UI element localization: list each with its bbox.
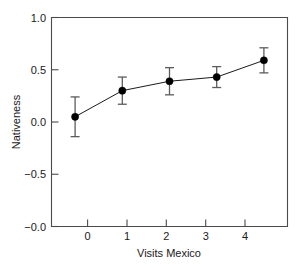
data-point-marker [119, 87, 126, 94]
y-axis-ticks [52, 18, 59, 227]
data-point-marker [166, 78, 173, 85]
y-axis-title: Nativeness [10, 94, 22, 149]
axes-frame [52, 18, 288, 227]
x-tick-label-2: 2 [163, 230, 169, 242]
y-tick-label-5: −0.0 [24, 221, 46, 233]
y-tick-label-3: 0.0 [31, 116, 46, 128]
y-tick-label-1: 1.0 [31, 12, 46, 24]
x-axis-title: Visits Mexico [137, 247, 201, 259]
chart-canvas: 1.0 0.5 0.0 −0.5 −0.0 0 1 2 3 4 Visits M… [0, 0, 300, 268]
x-tick-label-3: 3 [203, 230, 209, 242]
data-point-marker [260, 57, 267, 64]
data-point-marker [72, 113, 79, 120]
x-axis-tick-labels: 0 1 2 3 4 [85, 230, 249, 242]
data-point-marker [213, 73, 220, 80]
x-axis-ticks [88, 220, 245, 227]
data-series-layer [71, 48, 269, 137]
x-tick-label-1: 1 [124, 230, 130, 242]
chart-figure: 1.0 0.5 0.0 −0.5 −0.0 0 1 2 3 4 Visits M… [0, 0, 300, 268]
x-tick-label-4: 4 [242, 230, 248, 242]
y-axis-tick-labels: 1.0 0.5 0.0 −0.5 −0.0 [24, 12, 46, 233]
y-tick-label-2: 0.5 [31, 64, 46, 76]
x-tick-label-0: 0 [85, 230, 91, 242]
plot-border [52, 18, 288, 227]
y-tick-label-4: −0.5 [24, 168, 46, 180]
